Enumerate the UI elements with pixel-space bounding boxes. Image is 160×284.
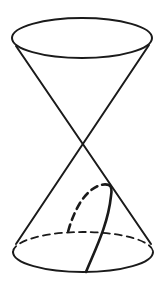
bottom-base-front-arc <box>13 252 153 272</box>
top-base-ellipse <box>12 18 152 58</box>
section-curve-back <box>68 184 109 232</box>
bottom-base-back-arc <box>13 232 153 252</box>
double-cone-diagram <box>0 0 160 284</box>
section-curve-front <box>86 185 111 272</box>
